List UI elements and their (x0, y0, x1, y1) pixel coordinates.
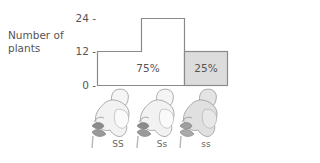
genotype-label-ss-recessive: ss (196, 139, 216, 149)
dominant-bar (98, 19, 185, 86)
genotype-label-ss-dominant: SS (108, 139, 128, 149)
dominant-percentage-label: 75% (128, 62, 168, 74)
genotype-label-ss-heterozygous: Ss (152, 139, 172, 149)
recessive-percentage-label: 25% (186, 62, 226, 74)
